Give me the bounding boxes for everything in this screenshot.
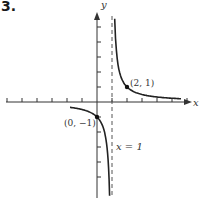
point-label-2-1: (2, 1) (130, 78, 154, 88)
asymptote-label: x = 1 (116, 141, 143, 152)
x-axis-arrow-icon (184, 99, 192, 105)
point-2-1 (125, 85, 129, 89)
x-axis-label: x (193, 97, 199, 108)
y-axis-arrow-icon (94, 12, 100, 20)
point-label-0-neg1: (0, −1) (64, 118, 96, 128)
x-axis (6, 98, 192, 105)
y-axis-label: y (100, 0, 107, 10)
y-axis (94, 12, 101, 198)
graph-figure: y x (2, 1) (0, −1) x = 1 (0, 0, 200, 203)
